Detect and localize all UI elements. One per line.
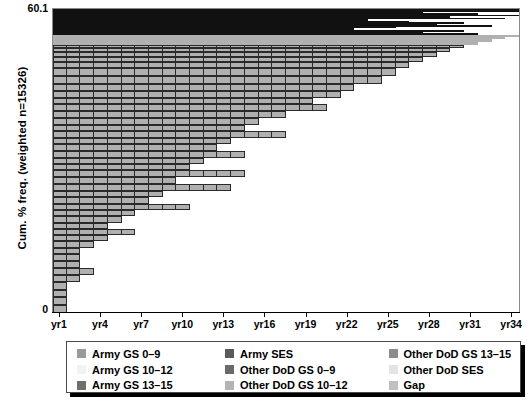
mosaic-cell bbox=[176, 76, 190, 84]
x-axis-tick bbox=[306, 313, 307, 317]
legend-swatch bbox=[77, 381, 86, 390]
mosaic-cell bbox=[53, 290, 67, 298]
mosaic-cell bbox=[149, 91, 163, 99]
mosaic-cell bbox=[272, 68, 286, 75]
legend-swatch bbox=[225, 365, 234, 374]
mosaic-cell bbox=[135, 131, 149, 138]
mosaic-cell bbox=[135, 204, 149, 211]
mosaic-cell bbox=[245, 91, 259, 99]
mosaic-cell bbox=[272, 76, 286, 84]
mosaic-cell bbox=[272, 131, 286, 138]
mosaic-cell bbox=[53, 261, 67, 268]
mosaic-cell bbox=[450, 18, 464, 19]
mosaic-cell bbox=[176, 84, 190, 91]
x-axis-line bbox=[52, 312, 520, 313]
mosaic-cell bbox=[217, 184, 231, 191]
mosaic-cell bbox=[53, 68, 67, 75]
legend-label: Army GS 10–12 bbox=[92, 364, 173, 376]
mosaic-cell bbox=[108, 68, 122, 75]
mosaic-cell bbox=[437, 48, 451, 52]
mosaic-cell bbox=[94, 76, 108, 84]
mosaic-cell bbox=[163, 91, 177, 99]
legend-swatch bbox=[225, 381, 234, 390]
mosaic-cell bbox=[67, 204, 81, 211]
mosaic-cell bbox=[67, 170, 81, 177]
mosaic-cell bbox=[176, 151, 190, 158]
x-axis-tick-label: yr19 bbox=[295, 318, 317, 330]
x-axis-tick bbox=[470, 313, 471, 317]
mosaic-cell bbox=[94, 170, 108, 177]
mosaic-row bbox=[53, 290, 67, 298]
mosaic-cell bbox=[259, 131, 273, 138]
mosaic-cell bbox=[67, 191, 81, 198]
mosaic-cell bbox=[190, 170, 204, 177]
mosaic-row bbox=[53, 275, 80, 282]
mosaic-cell bbox=[176, 131, 190, 138]
mosaic-cell bbox=[94, 91, 108, 99]
mosaic-cell bbox=[204, 131, 218, 138]
mosaic-cell bbox=[272, 111, 286, 117]
mosaic-cell bbox=[286, 104, 300, 111]
mosaic-row bbox=[53, 151, 245, 158]
mosaic-cell bbox=[108, 170, 122, 177]
mosaic-cell bbox=[53, 91, 67, 99]
mosaic-cell bbox=[122, 144, 136, 151]
mosaic-cell bbox=[53, 151, 67, 158]
mosaic-cell bbox=[190, 76, 204, 84]
x-axis-tick bbox=[511, 313, 512, 317]
mosaic-cell bbox=[67, 131, 81, 138]
mosaic-cell bbox=[53, 241, 67, 248]
mosaic-cell bbox=[135, 118, 149, 125]
mosaic-cell bbox=[53, 268, 67, 275]
mosaic-cell bbox=[122, 210, 136, 216]
mosaic-cell bbox=[149, 204, 163, 211]
mosaic-cell bbox=[478, 11, 492, 12]
mosaic-cell bbox=[135, 151, 149, 158]
mosaic-cell bbox=[190, 84, 204, 91]
mosaic-cell bbox=[67, 275, 81, 282]
mosaic-row bbox=[53, 91, 341, 99]
mosaic-cell bbox=[300, 76, 314, 84]
mosaic-cell bbox=[94, 151, 108, 158]
mosaic-cell bbox=[204, 68, 218, 75]
mosaic-cell bbox=[135, 68, 149, 75]
mosaic-cell bbox=[464, 42, 478, 45]
mosaic-cell bbox=[354, 68, 368, 75]
mosaic-cell bbox=[53, 118, 67, 125]
x-axis-tick bbox=[429, 313, 430, 317]
mosaic-cell bbox=[190, 151, 204, 158]
mosaic-cell bbox=[190, 158, 204, 164]
mosaic-cell bbox=[327, 68, 341, 75]
mosaic-cell bbox=[272, 104, 286, 111]
mosaic-cell bbox=[217, 170, 231, 177]
mosaic-cell bbox=[176, 91, 190, 99]
mosaic-row bbox=[53, 104, 327, 111]
mosaic-cell bbox=[190, 184, 204, 191]
legend-label: Army GS 13–15 bbox=[92, 379, 173, 391]
legend-item: Army GS 10–12 bbox=[77, 363, 225, 377]
mosaic-cell bbox=[94, 68, 108, 75]
mosaic-cell bbox=[94, 104, 108, 111]
mosaic-cell bbox=[53, 131, 67, 138]
mosaic-cell bbox=[450, 11, 464, 12]
mosaic-cell bbox=[108, 144, 122, 151]
mosaic-cell bbox=[217, 84, 231, 91]
mosaic-cell bbox=[382, 18, 396, 19]
x-axis-tick bbox=[264, 313, 265, 317]
mosaic-cell bbox=[217, 118, 231, 125]
mosaic-cell bbox=[163, 104, 177, 111]
mosaic-cell bbox=[313, 104, 327, 111]
mosaic-cell bbox=[80, 241, 94, 248]
legend-item: Other DoD GS 10–12 bbox=[225, 378, 389, 392]
mosaic-cell bbox=[204, 91, 218, 99]
y-axis-tick-top: 60.1 bbox=[0, 2, 48, 14]
mosaic-cell bbox=[122, 76, 136, 84]
mosaic-cell bbox=[231, 170, 245, 177]
mosaic-cell bbox=[327, 91, 341, 99]
mosaic-cell bbox=[94, 235, 108, 241]
mosaic-cell bbox=[176, 68, 190, 75]
mosaic-cell bbox=[286, 76, 300, 84]
mosaic-cell bbox=[245, 76, 259, 84]
y-axis-title: Cum. % freq. (weighted n=15326) bbox=[16, 8, 28, 308]
mosaic-cell bbox=[80, 131, 94, 138]
